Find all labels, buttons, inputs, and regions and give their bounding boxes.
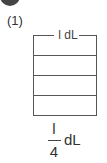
fraction-denominator: 4 [48,143,60,160]
fraction-numerator: l [48,120,60,137]
fraction-bar [48,140,61,141]
division-line [34,95,96,96]
division-line [34,55,96,56]
section-marker-icon [0,0,20,6]
top-border-left [34,35,54,36]
top-border-right [79,35,96,36]
problem-label: (1) [7,13,23,28]
fraction-unit: dL [64,131,81,148]
container-caption: l dL [55,28,81,42]
measuring-container-diagram: l dL [33,35,97,116]
division-line [34,75,96,76]
